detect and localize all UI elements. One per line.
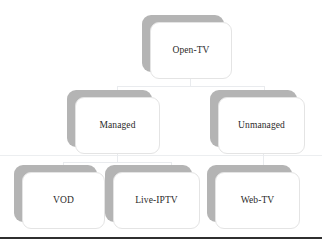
node-card[interactable]: VOD: [22, 172, 105, 229]
node-label: Live-IPTV: [135, 196, 178, 206]
node-label: Web-TV: [241, 196, 275, 206]
separator-rule-faint: [0, 155, 322, 156]
node-vod[interactable]: VOD: [14, 165, 97, 222]
node-managed[interactable]: Managed: [67, 90, 152, 147]
node-card[interactable]: Web-TV: [215, 172, 300, 229]
diagram-canvas: Open-TV Managed Unmanaged VOD Live-IPTV …: [0, 0, 322, 245]
node-live-iptv[interactable]: Live-IPTV: [105, 165, 192, 222]
node-web-tv[interactable]: Web-TV: [207, 165, 292, 222]
connector-managed-bus: [63, 162, 171, 163]
node-card[interactable]: Unmanaged: [218, 97, 305, 154]
node-unmanaged[interactable]: Unmanaged: [210, 90, 297, 147]
connector-managed-stem: [117, 154, 118, 162]
node-open-tv[interactable]: Open-TV: [142, 15, 224, 72]
connector-level1-bus: [117, 86, 265, 87]
node-card[interactable]: Managed: [75, 97, 160, 154]
node-label: Open-TV: [172, 46, 209, 56]
node-card[interactable]: Live-IPTV: [113, 172, 200, 229]
bottom-rule: [0, 237, 322, 239]
node-label: VOD: [53, 196, 74, 206]
node-label: Managed: [99, 121, 135, 131]
node-label: Unmanaged: [238, 121, 285, 131]
node-card[interactable]: Open-TV: [150, 22, 232, 79]
